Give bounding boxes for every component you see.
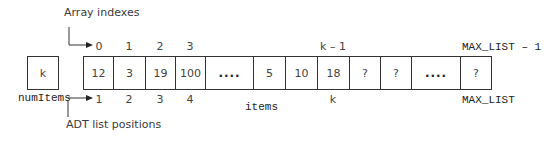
array-cell: 10 xyxy=(285,56,318,90)
index-max-list-minus-1: MAX_LIST – 1 xyxy=(462,41,541,53)
position-4: 4 xyxy=(187,93,194,106)
adt-positions-label: ADT list positions xyxy=(66,118,161,131)
array-indexes-leader xyxy=(69,27,86,45)
position-max-list: MAX_LIST xyxy=(462,94,515,106)
ellipsis-cell: .... xyxy=(205,56,254,90)
items-label: items xyxy=(245,101,278,113)
array-cell: 19 xyxy=(145,56,176,90)
num-items-label: numItems xyxy=(18,92,71,104)
index-3: 3 xyxy=(187,40,194,53)
position-3: 3 xyxy=(157,93,164,106)
array-cell: ? xyxy=(460,56,492,90)
num-items-box: k xyxy=(27,56,59,90)
ellipsis-cell: .... xyxy=(411,56,461,90)
position-2: 2 xyxy=(126,93,133,106)
array-cell: 5 xyxy=(253,56,286,90)
array-cell: 100 xyxy=(175,56,206,90)
array-cell: ? xyxy=(349,56,381,90)
array-indexes-label: Array indexes xyxy=(64,6,139,19)
array-cell: 18 xyxy=(317,56,350,90)
array-cell: 12 xyxy=(83,56,114,90)
arrow-head-icon xyxy=(86,95,93,101)
array-cell: 3 xyxy=(113,56,146,90)
index-k-minus-1: k – 1 xyxy=(320,40,346,53)
index-2: 2 xyxy=(157,40,164,53)
index-1: 1 xyxy=(126,40,133,53)
arrow-head-icon xyxy=(86,42,93,48)
position-1: 1 xyxy=(96,93,103,106)
index-0: 0 xyxy=(96,40,103,53)
position-k: k xyxy=(330,93,336,106)
array-cell: ? xyxy=(380,56,412,90)
